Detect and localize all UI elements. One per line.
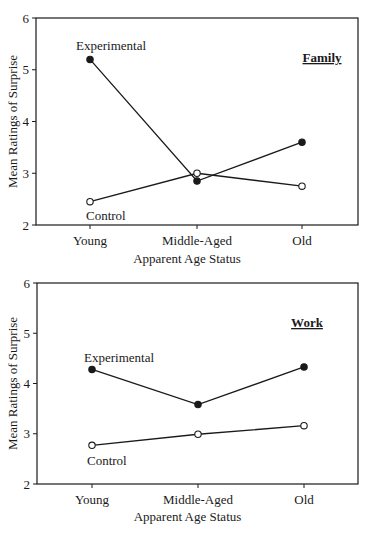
open-marker <box>301 423 307 429</box>
x-tick-label: Middle-Aged <box>163 492 234 507</box>
experimental-label: Experimental <box>76 38 146 53</box>
filled-marker <box>301 364 307 370</box>
open-marker <box>87 199 93 205</box>
series-line-experimental <box>90 59 302 181</box>
series-line-experimental <box>92 367 304 405</box>
filled-marker <box>87 56 93 62</box>
x-tick-label: Young <box>75 492 110 507</box>
x-axis-label: Apparent Age Status <box>134 509 242 524</box>
chart-panel-family: 23456YoungMiddle-AgedOldApparent Age Sta… <box>5 11 358 267</box>
y-axis-label: Mean Ratings of Surprise <box>5 55 20 188</box>
x-tick-label: Young <box>73 233 108 248</box>
open-marker <box>89 442 95 448</box>
chart-panel-work: 23456YoungMiddle-AgedOldApparent Age Sta… <box>5 276 358 525</box>
filled-marker <box>89 366 95 372</box>
x-tick-label: Old <box>294 492 314 507</box>
control-label: Control <box>87 453 127 468</box>
x-tick-label: Middle-Aged <box>162 233 233 248</box>
filled-marker <box>195 401 201 407</box>
y-tick-label: 2 <box>24 477 31 492</box>
plot-frame <box>37 283 358 484</box>
panel-title: Family <box>303 50 342 65</box>
y-tick-label: 6 <box>23 11 30 26</box>
y-tick-label: 4 <box>23 114 30 129</box>
y-tick-label: 3 <box>24 426 31 441</box>
x-axis-label: Apparent Age Status <box>133 251 241 266</box>
open-marker <box>299 183 305 189</box>
y-axis-label: Mean Ratings of Surprise <box>5 317 20 450</box>
y-tick-label: 4 <box>24 376 31 391</box>
control-label: Control <box>86 208 126 223</box>
y-tick-label: 3 <box>23 166 30 181</box>
filled-marker <box>194 178 200 184</box>
y-tick-label: 2 <box>23 218 30 233</box>
open-marker <box>195 431 201 437</box>
panel-title: Work <box>291 315 324 330</box>
open-marker <box>194 170 200 176</box>
filled-marker <box>299 139 305 145</box>
y-tick-label: 5 <box>24 326 31 341</box>
experimental-label: Experimental <box>84 350 154 365</box>
charts-canvas: 23456YoungMiddle-AgedOldApparent Age Sta… <box>0 0 367 536</box>
y-tick-label: 5 <box>23 62 30 77</box>
x-tick-label: Old <box>292 233 312 248</box>
y-tick-label: 6 <box>24 276 31 291</box>
